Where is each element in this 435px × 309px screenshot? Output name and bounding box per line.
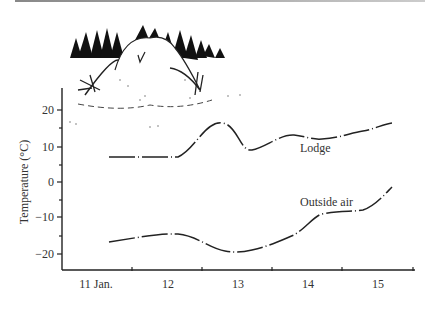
y-axis-label: Temperature (°C) [17,140,31,224]
svg-text:−10: −10 [35,210,54,224]
svg-text:14: 14 [302,277,314,291]
svg-text:20: 20 [42,103,54,117]
svg-text:15: 15 [372,277,384,291]
svg-text:11 Jan.: 11 Jan. [79,277,113,291]
svg-text:13: 13 [232,277,244,291]
lodge-illustration [69,25,241,128]
lodge-label: Lodge [300,141,331,155]
y-tick-labels: 20 10 0 −10 −20 [35,103,54,261]
x-tick-labels: 11 Jan. 12 13 14 15 [79,277,384,291]
series-lodge [109,123,392,157]
y-ticks [57,110,62,254]
svg-text:−20: −20 [35,247,54,261]
chart: 20 10 0 −10 −20 11 Jan. 12 13 14 15 Temp… [0,0,435,309]
outside-label: Outside air [300,195,353,209]
svg-text:12: 12 [162,277,174,291]
svg-text:10: 10 [42,140,54,154]
svg-text:0: 0 [48,175,54,189]
